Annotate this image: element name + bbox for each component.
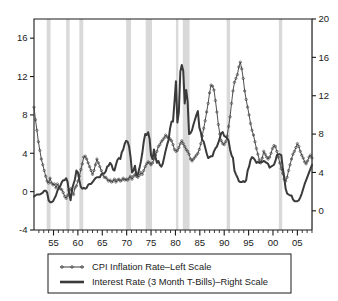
right-axis-tick-label: 20 [319,13,330,24]
recession-band [279,19,282,230]
x-axis-tick-label: 95 [243,237,254,248]
x-axis-tick-label: 90 [219,237,230,248]
chart-figure: -40481216 048121620 55606570758085909500… [0,0,338,301]
x-axis-tick-label: 85 [195,237,206,248]
x-axis-tick-label: 05 [292,237,303,248]
x-axis-tick-label: 75 [146,237,157,248]
recession-band [126,19,131,230]
right-axis-tick-label: 16 [319,52,330,63]
right-axis-tick-label: 12 [319,90,330,101]
x-axis-tick-label: 60 [73,237,84,248]
left-axis-tick-label: 4 [22,148,27,159]
right-axis-tick-label: 0 [319,205,324,216]
recession-band [146,19,152,230]
inflation-interest-rate-chart: -40481216 048121620 55606570758085909500… [0,0,338,301]
x-axis-tick-label: 65 [97,237,108,248]
recession-band [176,19,178,230]
right-axis-tick-label: 4 [319,167,324,178]
chart-legend: CPI Inflation Rate–Left ScaleInterest Ra… [48,254,291,293]
left-axis-tick-label: 12 [17,71,28,82]
x-axis-tick-label: 70 [121,237,132,248]
x-axis-tick-label: 80 [170,237,181,248]
left-axis-tick-label: 0 [22,186,27,197]
recession-band [227,19,230,230]
left-axis-tick-label: 16 [17,32,28,43]
right-axis-tick-label: 8 [319,128,324,139]
left-axis-tick-label: -4 [19,224,27,235]
left-axis-tick-label: 8 [22,109,27,120]
recession-band [79,19,83,230]
recession-band [66,19,69,230]
legend-label-interest-rate: Interest Rate (3 Month T-Bills)–Right Sc… [92,277,268,287]
legend-label-cpi: CPI Inflation Rate–Left Scale [92,262,211,272]
x-axis-tick-label: 55 [48,237,59,248]
x-axis-tick-label: 00 [268,237,279,248]
